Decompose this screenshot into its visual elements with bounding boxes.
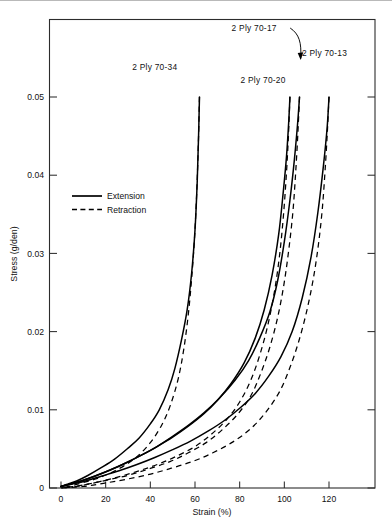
stress-strain-chart: 02040608010012000.010.020.030.040.05 2 P… bbox=[0, 1, 392, 523]
x-tick-label: 120 bbox=[322, 494, 337, 504]
y-tick-label: 0.03 bbox=[27, 249, 44, 259]
y-tick-label: 0 bbox=[39, 483, 44, 493]
legend-label: Retraction bbox=[107, 205, 146, 215]
curve-2-ply-70-34-solid bbox=[61, 97, 199, 486]
curve-2-ply-70-17-dashed bbox=[61, 97, 300, 488]
x-tick-label: 20 bbox=[101, 494, 111, 504]
curve-2-ply-70-13-dashed bbox=[61, 97, 329, 488]
curve-paths bbox=[61, 97, 329, 488]
y-tick-label: 0.04 bbox=[27, 170, 44, 180]
figure-container: 02040608010012000.010.020.030.040.05 2 P… bbox=[0, 0, 392, 523]
plot-frame bbox=[50, 20, 376, 489]
curve-2-ply-70-20-solid bbox=[61, 97, 290, 486]
x-axis-title: Strain (%) bbox=[192, 507, 231, 517]
y-axis-title: Stress (g/den) bbox=[9, 226, 19, 281]
curve-label: 2 Ply 70-20 bbox=[241, 75, 286, 85]
curve-label: 2 Ply 70-13 bbox=[302, 48, 347, 58]
curve-label: 2 Ply 70-34 bbox=[132, 62, 177, 72]
curve-2-ply-70-13-solid bbox=[61, 97, 329, 486]
curve-2-ply-70-17-solid bbox=[61, 97, 300, 486]
x-tick-label: 40 bbox=[146, 494, 156, 504]
axis-tick-labels: 02040608010012000.010.020.030.040.05 bbox=[27, 92, 336, 503]
x-tick-label: 60 bbox=[190, 494, 200, 504]
legend-label: Extension bbox=[107, 191, 145, 201]
curve-2-ply-70-34-dashed bbox=[61, 97, 199, 488]
x-tick-label: 80 bbox=[235, 494, 245, 504]
x-tick-label: 0 bbox=[59, 494, 64, 504]
y-tick-label: 0.05 bbox=[27, 92, 44, 102]
x-tick-label: 100 bbox=[277, 494, 292, 504]
chart-legend: ExtensionRetraction bbox=[72, 191, 146, 215]
y-tick-label: 0.02 bbox=[27, 327, 44, 337]
y-tick-label: 0.01 bbox=[27, 405, 44, 415]
curve-2-ply-70-20-dashed bbox=[61, 97, 290, 488]
curve-annotations: 2 Ply 70-342 Ply 70-172 Ply 70-202 Ply 7… bbox=[132, 23, 347, 85]
curve-label: 2 Ply 70-17 bbox=[232, 23, 277, 33]
